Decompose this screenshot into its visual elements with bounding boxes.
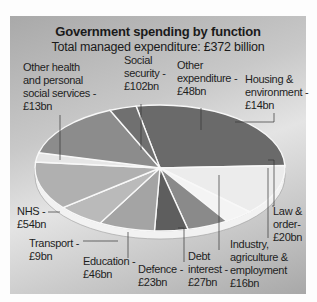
label-housing-environment: Housing & environment - £14bn (245, 73, 308, 112)
label-other-health: Other health and personal social service… (23, 61, 96, 113)
label-education: Education - £46bn (83, 255, 135, 281)
label-nhs: NHS - £54bn (17, 205, 46, 231)
label-defence: Defence - £23bn (138, 263, 183, 289)
label-social-security: Social security - £102bn (124, 54, 166, 93)
label-transport: Transport - £9bn (29, 237, 79, 263)
label-industry: Industry, agriculture & employment £16bn (230, 238, 288, 290)
label-debt-interest: Debt interest - £27bn (188, 250, 228, 289)
label-other-expenditure: Other expenditure - £48bn (177, 59, 237, 98)
pie-slice (136, 105, 285, 168)
